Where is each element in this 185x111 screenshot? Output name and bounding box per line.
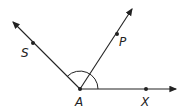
ray-ap	[80, 9, 132, 89]
diagram-canvas: S P X A	[0, 0, 185, 111]
label-s: S	[21, 46, 29, 60]
angle-arc	[67, 71, 98, 89]
angle-diagram: S P X A	[0, 0, 185, 111]
point-a	[78, 87, 82, 91]
point-x	[144, 87, 148, 91]
label-p: P	[119, 35, 127, 49]
label-a: A	[74, 95, 83, 109]
label-x: X	[140, 95, 150, 109]
point-s	[31, 41, 35, 45]
